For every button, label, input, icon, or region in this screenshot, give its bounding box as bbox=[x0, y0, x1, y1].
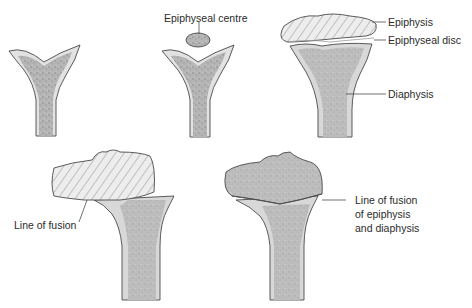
ossification-diagram: Epiphyseal centre Epiphysis Epiphyseal d… bbox=[0, 0, 472, 308]
epiphyseal-centre-ossification bbox=[186, 33, 210, 47]
label-line-of-fusion-epiphysis-diaphysis-line2: of epiphysis bbox=[355, 208, 410, 221]
stage-5-bone bbox=[225, 152, 346, 300]
label-line-of-fusion: Line of fusion bbox=[14, 219, 76, 232]
label-epiphysis: Epiphysis bbox=[388, 16, 433, 29]
label-diaphysis: Diaphysis bbox=[388, 88, 434, 101]
label-epiphyseal-disc: Epiphyseal disc bbox=[388, 34, 461, 47]
label-line-of-fusion-epiphysis-diaphysis-line3: and diaphysis bbox=[355, 222, 419, 235]
stage-2-bone bbox=[162, 22, 234, 137]
label-epiphyseal-centre: Epiphyseal centre bbox=[164, 12, 247, 25]
label-line-of-fusion-epiphysis-diaphysis-line1: Line of fusion bbox=[355, 194, 417, 207]
stage-1-bone bbox=[9, 45, 80, 136]
stage-3-bone bbox=[281, 14, 386, 137]
